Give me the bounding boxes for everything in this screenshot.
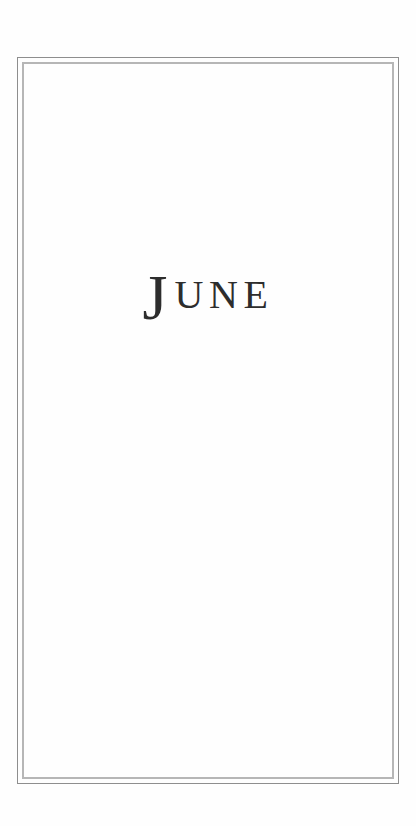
book-page: JUNE	[0, 0, 416, 826]
chapter-title-rest: UNE	[174, 275, 273, 315]
chapter-title: JUNE	[0, 255, 416, 319]
decorative-frame-inner	[22, 62, 394, 779]
decorative-frame-outer	[17, 57, 399, 784]
chapter-title-initial: J	[143, 266, 168, 330]
